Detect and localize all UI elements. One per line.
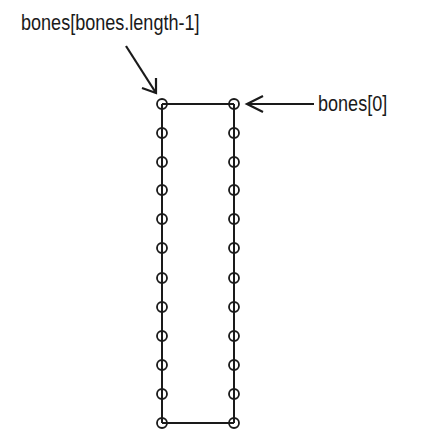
joint-circle bbox=[229, 418, 239, 428]
joint-circle bbox=[157, 360, 167, 370]
joint-circle bbox=[157, 273, 167, 283]
joint-circle bbox=[157, 99, 167, 109]
joint-circle bbox=[157, 302, 167, 312]
joint-circle bbox=[157, 157, 167, 167]
bone-chain-diagram bbox=[0, 0, 425, 444]
joint-circle bbox=[229, 157, 239, 167]
joint-circle bbox=[229, 214, 239, 224]
joint-circle bbox=[229, 128, 239, 138]
joint-circle bbox=[157, 185, 167, 195]
arrow-last-bone bbox=[126, 46, 156, 93]
joint-circle bbox=[157, 214, 167, 224]
joint-circle bbox=[157, 331, 167, 341]
joint-circle bbox=[157, 128, 167, 138]
joint-circle bbox=[229, 389, 239, 399]
joint-circle bbox=[157, 389, 167, 399]
joint-circle bbox=[229, 302, 239, 312]
joint-circle bbox=[229, 273, 239, 283]
joint-circle bbox=[229, 243, 239, 253]
joint-circle bbox=[229, 331, 239, 341]
joint-circle bbox=[157, 243, 167, 253]
bone-chain bbox=[157, 99, 239, 428]
joint-circle bbox=[229, 99, 239, 109]
joint-circle bbox=[157, 418, 167, 428]
arrow-first-bone bbox=[247, 96, 314, 112]
joint-circle bbox=[229, 360, 239, 370]
joint-circle bbox=[229, 185, 239, 195]
